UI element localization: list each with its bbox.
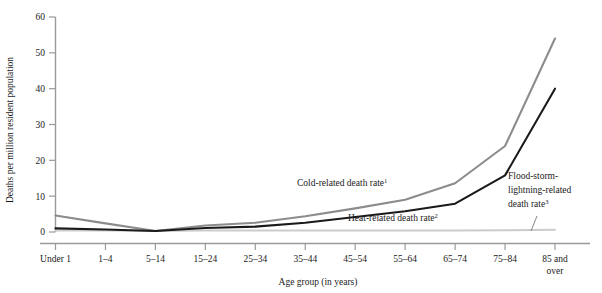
y-axis-tick-labels: 0102030405060 — [36, 12, 46, 237]
x-category-label: 55–64 — [393, 254, 417, 264]
x-category-label: 65–74 — [443, 254, 467, 264]
annotation-text: Heat-related death rate2 — [348, 212, 438, 224]
x-category-label: 45–54 — [343, 254, 367, 264]
series-line — [56, 39, 556, 231]
annotation-text: lightning-related — [508, 185, 572, 195]
x-category-label: over — [547, 266, 565, 276]
x-category-label: 35–44 — [293, 254, 317, 264]
y-tick-label: 20 — [36, 156, 46, 166]
annotation-footnote-marker: 1 — [384, 177, 387, 184]
x-axis-ticks — [56, 244, 556, 251]
x-category-label: Under 1 — [40, 254, 71, 264]
annotation-footnote-marker: 3 — [545, 198, 548, 205]
x-category-label: 75–84 — [493, 254, 517, 264]
x-category-label: 85 and — [542, 254, 568, 264]
x-axis-category-labels: Under 11–45–1415–2425–3435–4445–5455–646… — [40, 254, 568, 276]
y-tick-label: 10 — [36, 192, 46, 202]
annotation-text: death rate3 — [508, 198, 548, 210]
annotation-footnote-marker: 2 — [435, 212, 438, 219]
annotation-leader-line — [531, 216, 537, 231]
x-axis-title: Age group (in years) — [279, 277, 358, 288]
x-category-label: 25–34 — [243, 254, 267, 264]
chart-container: 0102030405060 Under 11–45–1415–2425–3435… — [0, 0, 602, 293]
annotation-text: Flood-storm- — [508, 171, 558, 181]
y-axis-ticks — [49, 17, 56, 232]
x-category-label: 1–4 — [98, 254, 113, 264]
series-lines — [56, 39, 556, 231]
y-tick-label: 0 — [40, 227, 45, 237]
annotation-text: Cold-related death rate1 — [297, 177, 387, 189]
line-chart: 0102030405060 Under 11–45–1415–2425–3435… — [0, 0, 602, 293]
y-tick-label: 40 — [36, 84, 46, 94]
y-tick-label: 30 — [36, 120, 46, 130]
x-category-label: 5–14 — [146, 254, 165, 264]
y-tick-label: 60 — [36, 12, 46, 22]
y-axis-title: Deaths per million resident population — [5, 57, 15, 203]
series-line — [56, 89, 556, 231]
x-category-label: 15–24 — [193, 254, 217, 264]
y-tick-label: 50 — [36, 48, 46, 58]
series-annotations: Cold-related death rate1Heat-related dea… — [297, 171, 572, 231]
